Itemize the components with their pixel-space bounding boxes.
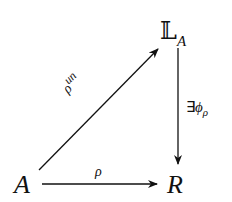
phi-symbol: ϕ bbox=[195, 99, 203, 115]
label-rho: ρ bbox=[95, 165, 102, 179]
node-A: A bbox=[14, 172, 30, 198]
node-LA: 𝕃A bbox=[160, 18, 186, 44]
arrow-rho-un bbox=[39, 49, 158, 170]
blackboard-L-symbol: 𝕃 bbox=[160, 17, 177, 45]
node-R: R bbox=[167, 172, 183, 198]
node-LA-subscript: A bbox=[177, 33, 186, 49]
exists-symbol: ∃ bbox=[186, 99, 195, 115]
label-phi: ∃ϕρ bbox=[186, 100, 208, 115]
phi-subscript: ρ bbox=[203, 106, 208, 118]
